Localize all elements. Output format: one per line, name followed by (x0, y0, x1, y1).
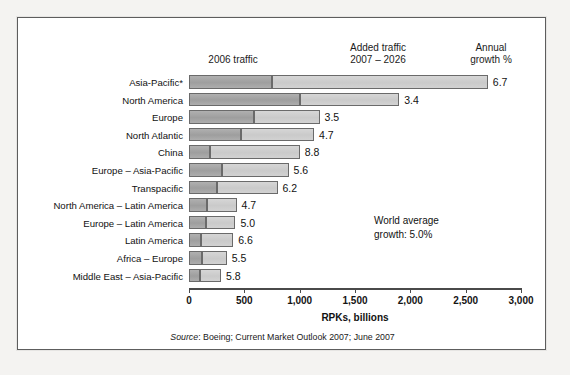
bar-segment-2006-traffic (189, 128, 241, 142)
column-header-annual-growth-line2: growth % (446, 54, 536, 66)
chart-row: Asia-Pacific*6.7 (18, 75, 547, 90)
bar-segment-2006-traffic (189, 93, 300, 107)
bar-segment-2006-traffic (189, 198, 207, 212)
column-header-added-traffic-line1: Added traffic (318, 42, 438, 54)
stacked-bar (189, 251, 227, 265)
bar-segment-2006-traffic (189, 216, 206, 230)
top-caption (0, 0, 570, 11)
chart-row: North America – Latin America4.7 (18, 198, 547, 213)
category-label: China (18, 146, 183, 159)
bar-segment-2006-traffic (189, 181, 217, 195)
bar-segment-2006-traffic (189, 75, 272, 89)
annual-growth-value: 4.7 (319, 128, 334, 142)
column-header-2006-traffic-label: 2006 traffic (208, 54, 257, 65)
page-background: 2006 traffic Added traffic 2007 – 2026 A… (0, 0, 570, 375)
annual-growth-value: 6.2 (283, 181, 298, 195)
bar-segment-added-traffic (207, 198, 237, 212)
column-header-added-traffic: Added traffic 2007 – 2026 (318, 42, 438, 66)
chart-row: Africa – Europe5.5 (18, 251, 547, 266)
bar-segment-added-traffic (254, 110, 319, 124)
annual-growth-value: 5.6 (294, 163, 309, 177)
bar-segment-2006-traffic (189, 145, 210, 159)
column-header-2006-traffic: 2006 traffic (173, 54, 293, 66)
annual-growth-value: 5.8 (226, 269, 241, 283)
column-header-added-traffic-line2: 2007 – 2026 (318, 54, 438, 66)
category-label: North Atlantic (18, 129, 183, 142)
stacked-bar (189, 75, 488, 89)
annual-growth-value: 6.7 (493, 75, 508, 89)
x-axis-tick (355, 288, 356, 293)
column-header-annual-growth: Annual growth % (446, 42, 536, 66)
stacked-bar (189, 110, 320, 124)
chart-row: Latin America6.6 (18, 233, 547, 248)
stacked-bar (189, 233, 233, 247)
stacked-bar (189, 128, 314, 142)
world-average-annotation: World average growth: 5.0% (374, 214, 439, 242)
annual-growth-value: 8.8 (305, 145, 320, 159)
annual-growth-value: 6.6 (238, 233, 253, 247)
annual-growth-value: 5.5 (232, 251, 247, 265)
bar-segment-2006-traffic (189, 110, 254, 124)
annual-growth-value: 3.5 (325, 110, 340, 124)
category-label: Europe – Latin America (18, 217, 183, 230)
x-axis-tick-label: 500 (219, 295, 269, 306)
chart-figure: 2006 traffic Added traffic 2007 – 2026 A… (17, 17, 546, 350)
stacked-bar (189, 216, 235, 230)
world-average-annotation-line2: growth: 5.0% (374, 228, 439, 242)
category-label: Transpacific (18, 182, 183, 195)
chart-row: Transpacific6.2 (18, 181, 547, 196)
x-axis-tick-label: 3,000 (496, 295, 546, 306)
bar-segment-added-traffic (200, 269, 221, 283)
bar-segment-added-traffic (206, 216, 236, 230)
category-label: Europe (18, 111, 183, 124)
chart-row: China8.8 (18, 145, 547, 160)
source-note: Source: Boeing; Current Market Outlook 2… (18, 332, 547, 342)
x-axis-label: RPKs, billions (189, 312, 521, 323)
chart-row: Europe3.5 (18, 110, 547, 125)
chart-row: North America3.4 (18, 93, 547, 108)
bar-segment-added-traffic (272, 75, 488, 89)
category-label: Latin America (18, 234, 183, 247)
stacked-bar (189, 145, 300, 159)
chart-row: Europe – Latin America5.0 (18, 216, 547, 231)
x-axis-tick-label: 1,500 (330, 295, 380, 306)
stacked-bar (189, 163, 289, 177)
chart-row: Middle East – Asia-Pacific5.8 (18, 269, 547, 284)
x-axis-tick-label: 2,500 (441, 295, 491, 306)
bar-segment-added-traffic (202, 251, 226, 265)
annual-growth-value: 3.4 (404, 93, 419, 107)
bar-segment-added-traffic (217, 181, 278, 195)
bar-segment-added-traffic (241, 128, 314, 142)
stacked-bar (189, 198, 237, 212)
x-axis-tick (521, 288, 522, 293)
bar-segment-2006-traffic (189, 163, 222, 177)
world-average-annotation-line1: World average (374, 214, 439, 228)
x-axis-tick (189, 288, 190, 293)
bar-segment-added-traffic (222, 163, 288, 177)
stacked-bar (189, 93, 399, 107)
category-label: North America (18, 94, 183, 107)
stacked-bar (189, 269, 221, 283)
annual-growth-value: 4.7 (242, 198, 257, 212)
x-axis-tick (466, 288, 467, 293)
stacked-bar (189, 181, 278, 195)
x-axis-tick-label: 2,000 (385, 295, 435, 306)
x-axis-tick (244, 288, 245, 293)
category-label: Asia-Pacific* (18, 76, 183, 89)
category-label: Africa – Europe (18, 252, 183, 265)
source-note-rest: : Boeing; Current Market Outlook 2007; J… (198, 332, 395, 342)
bar-segment-added-traffic (210, 145, 300, 159)
bar-segment-2006-traffic (189, 251, 202, 265)
bar-segment-added-traffic (300, 93, 400, 107)
category-label: Europe – Asia-Pacific (18, 164, 183, 177)
bar-segment-2006-traffic (189, 233, 201, 247)
x-axis-tick-label: 0 (164, 295, 214, 306)
x-axis-tick-label: 1,000 (275, 295, 325, 306)
category-label: Middle East – Asia-Pacific (18, 270, 183, 283)
column-header-annual-growth-line1: Annual (446, 42, 536, 54)
bar-segment-2006-traffic (189, 269, 200, 283)
annual-growth-value: 5.0 (240, 216, 255, 230)
category-label: North America – Latin America (18, 199, 183, 212)
x-axis-tick (300, 288, 301, 293)
chart-row: Europe – Asia-Pacific5.6 (18, 163, 547, 178)
